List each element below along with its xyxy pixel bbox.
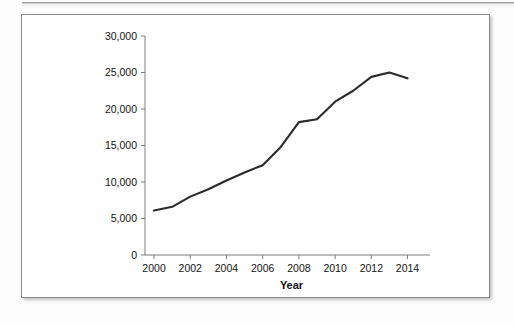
line-chart: 05,00010,00015,00020,00025,00030,000 200…	[22, 15, 489, 297]
x-axis-tick-marks	[154, 255, 407, 259]
figure-card: 05,00010,00015,00020,00025,00030,000 200…	[21, 14, 490, 298]
page-root: 05,00010,00015,00020,00025,00030,000 200…	[0, 0, 514, 324]
y-tick-label: 25,000	[105, 66, 137, 78]
x-tick-label: 2012	[360, 262, 384, 274]
x-tick-label: 2014	[396, 262, 420, 274]
x-tick-label: 2008	[287, 262, 311, 274]
y-axis-tick-marks	[141, 36, 145, 255]
x-tick-label: 2006	[251, 262, 275, 274]
x-tick-label: 2002	[179, 262, 203, 274]
chart-canvas: 05,00010,00015,00020,00025,00030,000 200…	[22, 15, 491, 299]
x-tick-label: 2004	[215, 262, 239, 274]
top-divider-shadow	[22, 4, 514, 10]
y-tick-label: 30,000	[105, 30, 137, 42]
y-tick-label: 15,000	[105, 139, 137, 151]
x-tick-label: 2010	[323, 262, 347, 274]
y-tick-label: 5,000	[111, 212, 137, 224]
data-series-line	[154, 73, 407, 211]
x-axis-title: Year	[280, 279, 304, 291]
y-axis-tick-labels: 05,00010,00015,00020,00025,00030,000	[105, 30, 137, 261]
y-tick-label: 10,000	[105, 176, 137, 188]
x-axis-tick-labels: 20002002200420062008201020122014	[142, 262, 419, 274]
y-tick-label: 20,000	[105, 103, 137, 115]
y-tick-label: 0	[131, 249, 137, 261]
x-tick-label: 2000	[142, 262, 166, 274]
